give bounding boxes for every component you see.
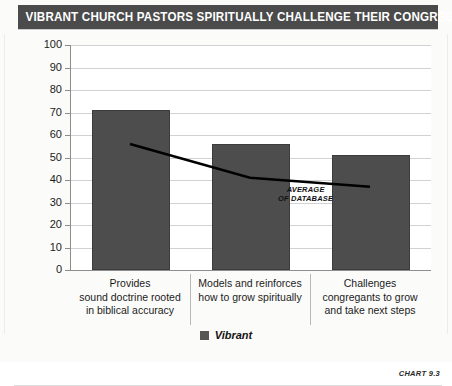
y-axis-tick-label: 20 — [22, 218, 62, 230]
y-axis-tick-label: 80 — [22, 83, 62, 95]
y-axis-tick-label: 30 — [22, 196, 62, 208]
y-axis-tick-label: 90 — [22, 61, 62, 73]
x-axis-category-labels: Providessound doctrine rootedin biblical… — [70, 272, 430, 327]
annotation-line-2: OF DATABASE — [278, 194, 333, 203]
category-label-line: Provides — [70, 277, 190, 291]
bar-1 — [92, 110, 170, 270]
chart-legend: Vibrant — [0, 329, 452, 341]
average-of-database-annotation: AVERAGE OF DATABASE — [278, 185, 333, 203]
category-label-line: congregants to grow — [310, 291, 430, 305]
category-label-1: Providessound doctrine rootedin biblical… — [70, 272, 190, 327]
category-label-3: Challengescongregants to growand take ne… — [310, 272, 430, 327]
y-axis-tick-label: 0 — [22, 263, 62, 275]
category-label-line: sound doctrine rooted — [70, 291, 190, 305]
legend-swatch-vibrant — [200, 331, 209, 340]
y-axis-tick-label: 60 — [22, 128, 62, 140]
chart-title-banner: VIBRANT CHURCH PASTORS SPIRITUALLY CHALL… — [18, 5, 438, 29]
gridline — [71, 68, 431, 69]
y-axis-tick-label: 50 — [22, 151, 62, 163]
category-label-line: in biblical accuracy — [70, 304, 190, 318]
category-label-line: and take next steps — [310, 304, 430, 318]
y-axis-tick-label: 70 — [22, 106, 62, 118]
category-label-line: Models and reinforces — [190, 277, 310, 291]
gridline — [71, 45, 431, 46]
y-axis-tick-label: 10 — [22, 241, 62, 253]
bar-3 — [332, 155, 410, 270]
bar-2 — [212, 144, 290, 270]
gridline — [71, 90, 431, 91]
category-label-line: how to grow spiritually — [190, 291, 310, 305]
annotation-line-1: AVERAGE — [278, 185, 333, 194]
plot-area — [70, 45, 431, 271]
y-axis-tick-label: 100 — [22, 38, 62, 50]
chart-title: VIBRANT CHURCH PASTORS SPIRITUALLY CHALL… — [18, 10, 452, 24]
chart-number-label: CHART 9.3 — [399, 369, 440, 378]
chart-area: 0102030405060708090100 AVERAGE OF DATABA… — [0, 33, 452, 333]
y-axis-tick-label: 40 — [22, 173, 62, 185]
category-label-line: Challenges — [310, 277, 430, 291]
legend-label-vibrant: Vibrant — [215, 329, 253, 341]
category-label-2: Models and reinforceshow to grow spiritu… — [190, 272, 310, 327]
